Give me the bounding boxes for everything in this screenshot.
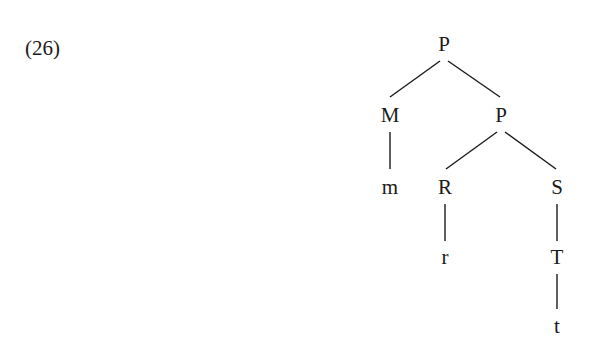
node-t: T [551, 245, 564, 269]
edge-mid-p-to-s [505, 132, 556, 169]
node-t-leaf: t [554, 314, 560, 338]
node-s: S [551, 175, 563, 199]
node-m: M [381, 103, 400, 127]
edge-mid-p-to-r [446, 132, 497, 169]
node-m-leaf: m [382, 175, 398, 199]
edge-root-p-to-mid-p [448, 61, 500, 97]
node-root-p: P [438, 32, 450, 56]
node-mid-p: P [495, 103, 507, 127]
node-r-leaf: r [442, 245, 449, 269]
node-r: R [438, 175, 452, 199]
tree-edges [0, 0, 592, 352]
edge-root-p-to-m [390, 61, 440, 97]
tree-diagram: P M P m R S r T t [0, 0, 592, 352]
